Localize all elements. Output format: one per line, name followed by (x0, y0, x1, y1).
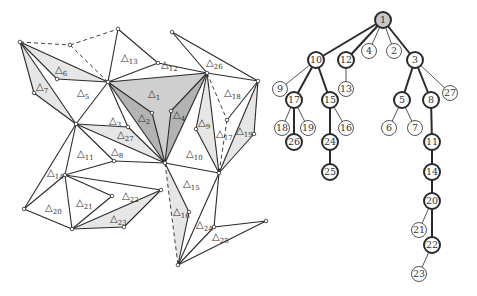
triangle-label-11: △11 (77, 148, 94, 162)
tree-node-1: 1 (375, 12, 391, 28)
tree-node-label: 9 (277, 83, 283, 94)
diagram-canvas: △1△2△3△4△5△6△7△8△9△10△11△12△13△14△15△16△… (0, 0, 477, 296)
triangle-label-13: △13 (121, 52, 138, 66)
mesh-vertex (18, 40, 22, 44)
tree-node-label: 14 (426, 166, 438, 177)
tree-node-label: 20 (426, 195, 438, 206)
dashed-edge (20, 42, 70, 45)
mesh-edge (65, 175, 161, 190)
tree-node-16: 16 (339, 121, 354, 136)
mesh-vertex (22, 207, 26, 211)
mesh-vertex (176, 263, 180, 267)
mesh-edge (65, 175, 72, 229)
mesh-vertex (150, 111, 154, 115)
mesh-edge (172, 32, 258, 81)
tree-node-26: 26 (286, 134, 302, 150)
tree-node-label: 13 (340, 83, 352, 94)
tree-node-label: 18 (276, 122, 288, 133)
mesh-edge (114, 161, 165, 163)
tree-node-22: 22 (424, 237, 440, 253)
mesh-vertex (110, 194, 114, 198)
tree-node-13: 13 (339, 82, 354, 97)
tree-node-2: 2 (387, 44, 402, 59)
tree-node-label: 19 (302, 122, 314, 133)
tree-node-6: 6 (382, 121, 397, 136)
triangle-label-25: △25 (212, 231, 229, 245)
mesh-vertex (159, 188, 163, 192)
tree-node-label: 12 (340, 54, 352, 65)
triangle-label-12: △12 (161, 59, 178, 73)
triangle-label-14: △14 (47, 167, 64, 181)
mesh-vertex (252, 132, 256, 136)
tree-node-label: 1 (380, 14, 386, 25)
triangle-label-24: △24 (196, 219, 213, 233)
tree-node-label: 16 (340, 122, 352, 133)
tree-node-label: 27 (444, 87, 456, 98)
tree-node-9: 9 (273, 82, 288, 97)
mesh-vertex (264, 219, 268, 223)
tree-node-label: 21 (413, 224, 425, 235)
tree-node-17: 17 (286, 92, 302, 108)
mesh-vertex (116, 27, 120, 31)
tree-node-8: 8 (423, 92, 439, 108)
tree-edges (280, 20, 450, 274)
triangle-mesh: △1△2△3△4△5△6△7△8△9△10△11△12△13△14△15△16△… (18, 27, 268, 267)
tree-node-label: 2 (391, 45, 397, 56)
tree-node-25: 25 (322, 164, 338, 180)
tree-node-label: 5 (399, 94, 405, 105)
mesh-vertex (225, 118, 229, 122)
triangle-label-20: △20 (45, 202, 62, 216)
triangle-13 (108, 29, 158, 82)
mesh-edge (214, 221, 266, 227)
tree-node-20: 20 (424, 193, 440, 209)
triangle-label-22: △22 (122, 190, 139, 204)
mesh-vertex (217, 171, 221, 175)
mesh-vertex (55, 77, 59, 81)
mesh-vertex (156, 61, 160, 65)
mesh-vertex (163, 161, 167, 165)
triangle-label-18: △18 (224, 87, 241, 101)
mesh-vertex (256, 79, 260, 83)
tree-node-3: 3 (407, 52, 423, 68)
mesh-edge (108, 29, 118, 82)
triangle-label-15: △15 (183, 178, 200, 192)
tree-node-27: 27 (443, 86, 458, 101)
tree-nodes: 1101242391715135827181916672624112514202… (273, 12, 458, 282)
tree-node-12: 12 (338, 52, 354, 68)
mesh-vertex (70, 227, 74, 231)
tree-node-label: 8 (428, 94, 434, 105)
mesh-edge (165, 163, 219, 173)
tree-node-5: 5 (394, 92, 410, 108)
tree-node-label: 7 (412, 122, 418, 133)
mesh-vertex (68, 43, 72, 47)
mesh-vertex (106, 80, 110, 84)
tree-node-11: 11 (424, 134, 440, 150)
tree-node-label: 6 (386, 122, 392, 133)
tree-node-23: 23 (412, 267, 427, 282)
tree-node-label: 10 (310, 54, 322, 65)
mesh-vertex (205, 71, 209, 75)
triangle-label-17: △17 (216, 128, 233, 142)
mesh-vertex (74, 122, 78, 126)
mesh-vertex (212, 225, 216, 229)
tree-node-10: 10 (308, 52, 324, 68)
tree-node-21: 21 (412, 223, 427, 238)
tree-node-label: 23 (413, 268, 425, 279)
triangle-label-21: △21 (76, 197, 93, 211)
tree-node-label: 24 (324, 136, 336, 147)
tree-node-19: 19 (301, 121, 316, 136)
dual-tree: 1101242391715135827181916672624112514202… (273, 12, 458, 282)
tree-node-24: 24 (322, 134, 338, 150)
mesh-edge (214, 173, 219, 227)
triangle-label-5: △5 (77, 87, 89, 101)
tree-node-4: 4 (362, 44, 377, 59)
tree-node-label: 15 (324, 94, 336, 105)
tree-node-label: 3 (412, 54, 418, 65)
tree-node-label: 26 (288, 136, 300, 147)
triangle-label-8: △8 (111, 146, 123, 160)
tree-node-label: 25 (324, 166, 336, 177)
mesh-edge (65, 124, 76, 175)
tree-node-15: 15 (322, 92, 338, 108)
tree-node-14: 14 (424, 164, 440, 180)
mesh-edge (65, 161, 114, 175)
